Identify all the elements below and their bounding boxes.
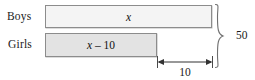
bar-girls-expression: x – 10: [46, 39, 156, 51]
bar-model-diagram: Boys x Girls x – 10 50 10: [0, 0, 255, 80]
bar-boys-expression: x: [46, 11, 211, 23]
row-label-girls: Girls: [8, 38, 32, 50]
bar-girls: x – 10: [45, 33, 157, 57]
bar-boys-variable: x: [126, 11, 131, 23]
difference-value-label: 10: [157, 66, 213, 78]
bar-boys: x: [45, 5, 212, 28]
total-value-label: 50: [236, 29, 248, 41]
row-label-boys: Boys: [7, 10, 31, 22]
bar-girls-expression-rest: – 10: [92, 39, 115, 51]
